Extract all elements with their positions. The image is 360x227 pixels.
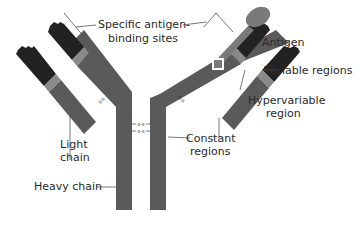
left-light-disulfide: s-s bbox=[96, 95, 105, 104]
label-constant-line1: Constant bbox=[186, 132, 236, 145]
label-light-chain-line2: chain bbox=[60, 151, 90, 164]
label-constant-line2: regions bbox=[190, 145, 231, 158]
hinge-disulfide-top: s-s bbox=[137, 121, 144, 127]
label-heavy-chain: Heavy chain bbox=[34, 180, 102, 193]
left-light-constant-region bbox=[49, 80, 96, 134]
hinge-disulfide-bottom: s-s bbox=[137, 128, 144, 134]
label-binding-sites-line1: Specific antigen- bbox=[98, 18, 190, 31]
label-antigen: Antigen bbox=[262, 36, 305, 49]
label-light-chain-line1: Light bbox=[60, 138, 88, 151]
label-hypervariable-line1: Hypervariable bbox=[248, 94, 326, 107]
right-heavy-constant-arm bbox=[150, 52, 241, 210]
antibody-diagram: s-s s-s s-s s-s Specific antigen- bindin… bbox=[0, 0, 360, 227]
label-hypervariable-line2: region bbox=[266, 107, 301, 120]
label-binding-sites-line2: binding sites bbox=[108, 32, 178, 45]
label-variable-regions: Variable regions bbox=[264, 64, 353, 77]
